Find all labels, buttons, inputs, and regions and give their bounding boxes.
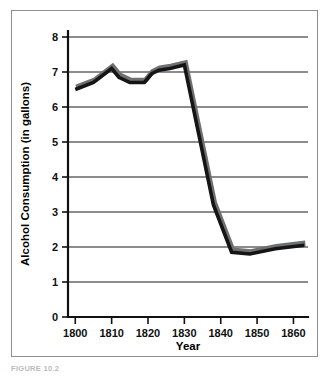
y-tick-label: 0 bbox=[52, 311, 58, 323]
data-line-alcohol-consumption bbox=[75, 65, 304, 254]
x-tick-label: 1840 bbox=[208, 327, 232, 339]
x-axis-title: Year bbox=[176, 340, 201, 352]
y-tick-label: 1 bbox=[52, 276, 58, 288]
y-tick-label: 3 bbox=[52, 206, 58, 218]
y-tick-label: 2 bbox=[52, 241, 58, 253]
line-chart: 012345678 1800181018201830184018501860 A… bbox=[12, 11, 317, 356]
y-tick-label: 5 bbox=[52, 136, 58, 148]
y-tick-label: 8 bbox=[52, 31, 58, 43]
figure-caption: FIGURE 10.2 bbox=[11, 364, 311, 373]
x-tick-label: 1850 bbox=[245, 327, 269, 339]
y-tick-label: 6 bbox=[52, 101, 58, 113]
x-tick-label: 1860 bbox=[281, 327, 305, 339]
y-tick-label: 7 bbox=[52, 66, 58, 78]
x-tick-label: 1820 bbox=[136, 327, 160, 339]
x-tick-label: 1800 bbox=[63, 327, 87, 339]
x-tick-label: 1810 bbox=[99, 327, 123, 339]
y-tick-label: 4 bbox=[52, 171, 59, 183]
y-axis-tick-labels: 012345678 bbox=[52, 31, 59, 323]
y-axis-title: Alcohol Consumption (in gallons) bbox=[19, 82, 31, 266]
x-tick-label: 1830 bbox=[172, 327, 196, 339]
figure-container: 012345678 1800181018201830184018501860 A… bbox=[0, 0, 329, 378]
x-axis-tick-labels: 1800181018201830184018501860 bbox=[63, 327, 306, 339]
chart-frame: 012345678 1800181018201830184018501860 A… bbox=[11, 10, 318, 357]
